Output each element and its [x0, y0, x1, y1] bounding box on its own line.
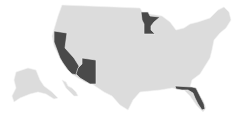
state-florida — [175, 86, 205, 110]
state-alaska — [12, 68, 58, 102]
us-mainland — [52, 5, 231, 112]
state-hawaii — [62, 80, 78, 96]
us-map-svg — [0, 0, 243, 123]
us-map — [0, 0, 243, 123]
